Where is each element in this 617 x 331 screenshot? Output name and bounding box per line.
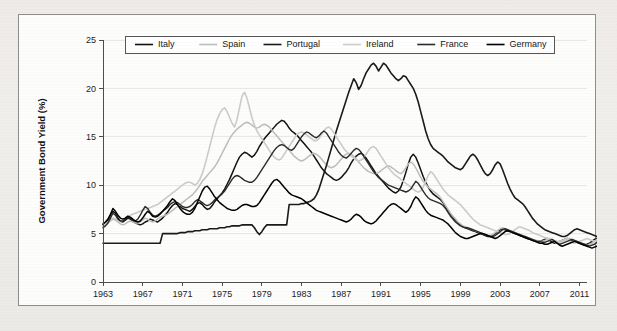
- x-tick-label-1983: 1983: [292, 289, 312, 299]
- x-tick-label-1979: 1979: [252, 289, 272, 299]
- figure-frame: 0510152025196319671971197519791983198719…: [18, 14, 596, 306]
- legend-label-ireland: Ireland: [366, 39, 394, 49]
- x-tick-label-1967: 1967: [133, 289, 153, 299]
- x-tick-label-1991: 1991: [371, 289, 391, 299]
- legend-label-germany: Germany: [510, 39, 548, 49]
- y-tick-label-25: 25: [86, 35, 96, 45]
- page-root: 0510152025196319671971197519791983198719…: [0, 0, 617, 331]
- x-tick-label-1971: 1971: [172, 289, 192, 299]
- bond-yield-chart: 0510152025196319671971197519791983198719…: [19, 15, 597, 307]
- series-line-germany: [103, 179, 597, 256]
- y-tick-label-0: 0: [91, 277, 96, 287]
- x-tick-label-1987: 1987: [331, 289, 351, 299]
- x-tick-label-1995: 1995: [411, 289, 431, 299]
- x-tick-label-2003: 2003: [490, 289, 510, 299]
- legend-label-portugal: Portugal: [287, 39, 321, 49]
- y-tick-label-10: 10: [86, 180, 96, 190]
- series-line-spain: [103, 122, 597, 245]
- y-axis-title: Government Bond Yield (%): [36, 98, 47, 223]
- y-tick-label-20: 20: [86, 84, 96, 94]
- y-tick-label-5: 5: [91, 229, 96, 239]
- x-tick-label-2007: 2007: [530, 289, 550, 299]
- series-line-ireland: [103, 92, 597, 245]
- x-tick-label-2011: 2011: [570, 289, 589, 299]
- x-tick-label-1963: 1963: [93, 289, 113, 299]
- legend-label-spain: Spain: [222, 39, 245, 49]
- x-tick-label-1999: 1999: [450, 289, 470, 299]
- series-line-italy: [103, 120, 597, 245]
- legend-label-france: France: [440, 39, 468, 49]
- chart-canvas: 0510152025196319671971197519791983198719…: [19, 15, 597, 307]
- y-tick-label-15: 15: [86, 132, 96, 142]
- legend-label-italy: Italy: [158, 39, 175, 49]
- chart-legend: ItalySpainPortugalIrelandFranceGermany: [125, 36, 555, 53]
- x-tick-label-1975: 1975: [212, 289, 232, 299]
